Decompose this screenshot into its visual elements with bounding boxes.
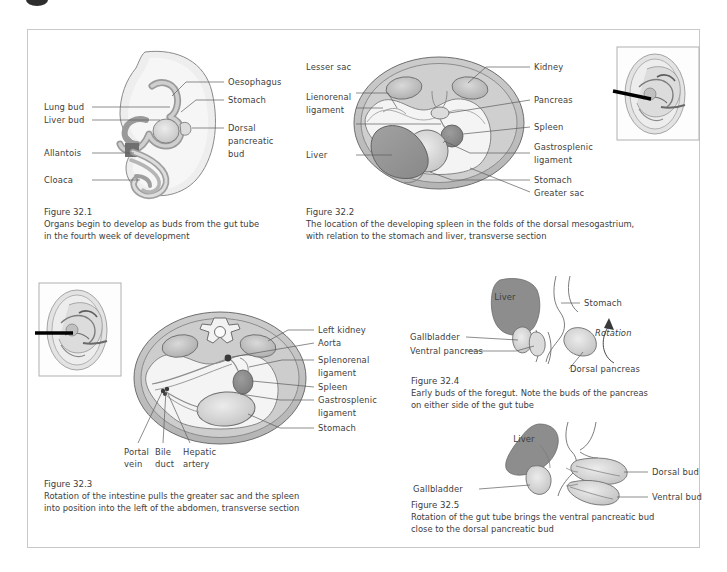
caption-line: into position into the left of the abdom… [44, 503, 299, 513]
label-allantois: Allantois [44, 148, 81, 158]
label-splenorenal-ligament: ligament [318, 368, 357, 378]
label-cloaca: Cloaca [44, 175, 73, 185]
caption-line: with relation to the stomach and liver, … [306, 231, 547, 241]
label-liver-bud: Liver bud [44, 115, 85, 125]
figure-number: Figure 32.1 [44, 207, 92, 217]
label-portal-vein-line1: Portal [124, 447, 149, 457]
caption-line: on either side of the gut tube [411, 400, 534, 410]
label-stomach: Stomach [534, 175, 572, 185]
caption-line: Rotation of the intestine pulls the grea… [44, 491, 299, 501]
figure-number: Figure 32.4 [411, 376, 459, 386]
fig-32-5-caption: Figure 32.5 Rotation of the gut tube bri… [411, 500, 654, 534]
caption-line: close to the dorsal pancreatic bud [411, 524, 554, 534]
label-rotation: Rotation [595, 328, 632, 338]
caption-line: Rotation of the gut tube brings the vent… [411, 512, 654, 522]
label-gastrosplenic: Gastrosplenic [318, 395, 377, 405]
label-gastrosplenic-ligament: ligament [534, 155, 573, 165]
label-greater-sac: Greater sac [534, 188, 585, 198]
caption-line: The location of the developing spleen in… [305, 219, 634, 229]
label-stomach: Stomach [228, 95, 266, 105]
label-spleen: Spleen [318, 382, 347, 392]
label-hepatic-artery-line2: artery [183, 459, 209, 469]
label-liver: Liver [494, 292, 516, 302]
fig-32-4-caption: Figure 32.4 Early buds of the foregut. N… [411, 376, 648, 410]
fig-32-1-caption: Figure 32.1 Organs begin to develop as b… [44, 207, 259, 241]
label-bile-duct-line2: duct [155, 459, 175, 469]
label-left-kidney: Left kidney [318, 325, 366, 335]
label-gallbladder: Gallbladder [410, 332, 460, 342]
figure-number: Figure 32.3 [44, 479, 92, 489]
fig-32-1-diagram [92, 51, 224, 196]
label-bud: bud [228, 149, 244, 159]
label-liver: Liver [513, 434, 535, 444]
caption-line: in the fourth week of development [44, 231, 190, 241]
label-kidney: Kidney [534, 62, 563, 72]
label-ventral-bud: Ventral bud [652, 492, 702, 502]
label-bile-duct-line1: Bile [155, 447, 171, 457]
label-dorsal-bud: Dorsal bud [652, 467, 699, 477]
label-aorta: Aorta [318, 338, 341, 348]
label-splenorenal: Splenorenal [318, 355, 369, 365]
caption-line: Organs begin to develop as buds from the… [44, 219, 259, 229]
label-gastrosplenic-ligament: ligament [318, 408, 357, 418]
fig-32-2-diagram [354, 57, 530, 192]
figures-layer: Lung bud Liver bud Allantois Cloaca Oeso… [0, 0, 727, 572]
label-liver: Liver [306, 150, 328, 160]
label-dorsal: Dorsal [228, 123, 256, 133]
label-stomach: Stomach [584, 298, 622, 308]
label-pancreas: Pancreas [534, 95, 573, 105]
fig-32-4-diagram: Liver Stomach Rotation Gallbladder Ventr… [410, 276, 640, 374]
figure-number: Figure 32.5 [411, 500, 459, 510]
fig-32-3-thumbnail [35, 283, 121, 376]
label-lienorenal: Lienorenal [306, 92, 351, 102]
label-oesophagus: Oesophagus [228, 77, 281, 87]
fig-32-2-thumbnail [613, 47, 699, 140]
fig-32-5-diagram: Liver Gallbladder Dorsal bud Ventral bud [413, 422, 702, 505]
label-lesser-sac: Lesser sac [306, 62, 352, 72]
label-dorsal-pancreas: Dorsal pancreas [570, 364, 640, 374]
label-gallbladder: Gallbladder [413, 484, 463, 494]
page-canvas: Lung bud Liver bud Allantois Cloaca Oeso… [0, 0, 727, 572]
label-hepatic-artery-line1: Hepatic [183, 447, 216, 457]
label-stomach: Stomach [318, 423, 356, 433]
fig-32-3-diagram [134, 312, 314, 444]
fig-32-2-caption: Figure 32.2 The location of the developi… [305, 207, 634, 241]
label-pancreatic: pancreatic [228, 136, 274, 146]
label-lienorenal-ligament: ligament [306, 105, 345, 115]
label-ventral-pancreas: Ventral pancreas [410, 346, 483, 356]
label-spleen: Spleen [534, 122, 563, 132]
figure-number: Figure 32.2 [306, 207, 354, 217]
label-gastrosplenic: Gastrosplenic [534, 142, 593, 152]
caption-line: Early buds of the foregut. Note the buds… [411, 388, 648, 398]
label-lung-bud: Lung bud [44, 102, 84, 112]
label-portal-vein-line2: vein [124, 459, 142, 469]
fig-32-3-caption: Figure 32.3 Rotation of the intestine pu… [44, 479, 299, 513]
